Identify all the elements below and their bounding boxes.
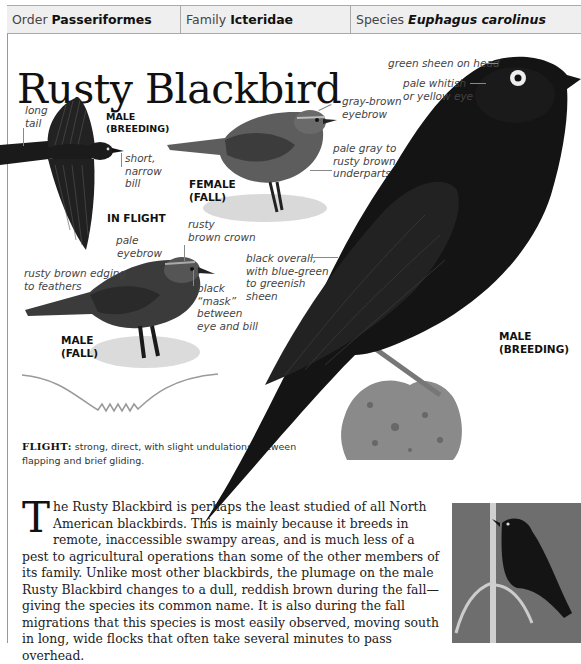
annotation-pale-eyebrow: pale eyebrow	[116, 234, 162, 259]
annotation-pale-eye: pale whitish or yellow eye	[403, 77, 473, 102]
photo-bird-on-branch	[452, 503, 581, 643]
annotation-long-tail: long tail	[25, 104, 48, 129]
bill-leader-line	[121, 153, 122, 167]
annotation-black-overall: black overall, with blue-green to greeni…	[246, 252, 329, 302]
caption-male-breeding: MALE (BREEDING)	[499, 330, 569, 356]
rusty-blackbird-photo	[452, 503, 581, 643]
flight-pattern-diagram	[20, 370, 220, 420]
species-value: Euphagus carolinus	[408, 12, 546, 27]
order-value: Passeriformes	[52, 12, 152, 27]
flight-label: FLIGHT:	[22, 441, 72, 452]
family-cell: Family Icteridae	[181, 6, 351, 33]
drop-cap: T	[22, 501, 50, 535]
caption-male-fall: MALE (FALL)	[61, 334, 98, 360]
crown-leader-line	[184, 245, 185, 261]
male-fall-bird-illustration	[20, 240, 220, 375]
caption-male-breeding-flight: MALE (BREEDING)	[106, 111, 169, 135]
in-flight-label: IN FLIGHT	[107, 212, 166, 224]
head-leader-line	[484, 63, 498, 64]
species-description: T he Rusty Blackbird is perhaps the leas…	[22, 499, 442, 664]
species-label: Species	[356, 12, 404, 27]
taxonomy-header: Order Passeriformes Family Icteridae Spe…	[7, 5, 581, 34]
body-leader-line	[310, 257, 338, 258]
annotation-green-sheen: green sheen on head	[388, 57, 500, 70]
description-text: he Rusty Blackbird is perhaps the least …	[22, 499, 442, 664]
family-value: Icteridae	[230, 12, 293, 27]
black-mask-leader-line	[193, 270, 194, 286]
annotation-short-narrow-bill: short, narrow bill	[125, 152, 162, 190]
eye-leader-line	[470, 83, 486, 84]
text-wrap-spacer	[220, 499, 221, 500]
order-cell: Order Passeriformes	[7, 6, 181, 33]
tail-leader-line	[23, 128, 24, 146]
species-cell: Species Euphagus carolinus	[351, 6, 581, 33]
order-label: Order	[12, 12, 48, 27]
annotation-rusty-brown-edging: rusty brown edging to feathers	[24, 267, 126, 292]
family-label: Family	[186, 12, 226, 27]
